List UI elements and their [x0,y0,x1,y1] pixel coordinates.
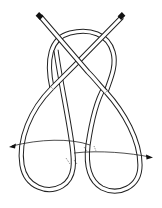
knot-svg [0,0,162,208]
left-rope-end [36,12,106,92]
right-lobe [87,88,140,191]
right-arrowhead-icon [146,155,153,160]
left-arrowhead-icon [9,144,16,149]
guide-arrows [9,140,153,164]
knot-diagram [0,0,162,208]
